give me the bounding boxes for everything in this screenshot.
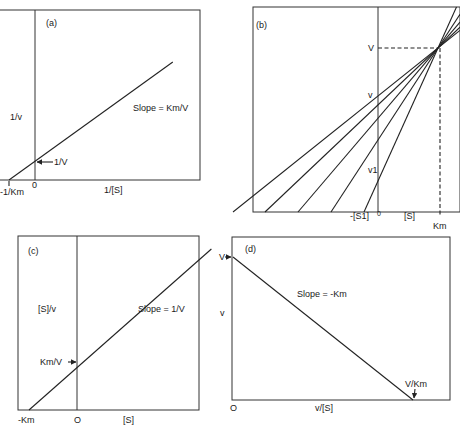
panel-c-frame (18, 236, 199, 410)
panel-a-frame (0, 10, 200, 180)
panel-b-plot-line-1 (233, 30, 460, 212)
panel-d-tag: (d) (245, 244, 256, 254)
panel-b-v-label: v (368, 90, 373, 100)
panel-b-origin: 0 (377, 210, 381, 217)
panel-d-Vkm-arrow (414, 389, 415, 398)
panel-d-plot-line (233, 257, 413, 400)
panel-b-frame (253, 7, 460, 212)
panel-a-plot-line (9, 62, 173, 180)
panel-b-v1-label: v1 (368, 165, 378, 175)
panel-d-x-intercept-label: V/Km (405, 379, 427, 389)
panel-a-tag: (a) (46, 18, 57, 28)
panel-d-ylabel: v (220, 308, 225, 318)
panel-a-ylabel: 1/v (10, 112, 23, 122)
panel-b-tag: (b) (256, 20, 267, 30)
panel-b-lines (233, 7, 460, 212)
panel-b-Km-label: Km (433, 221, 447, 231)
panel-c-origin: O (74, 415, 81, 425)
panel-a-origin: 0 (32, 180, 37, 190)
panel-d-frame (232, 237, 450, 400)
panel-a: (a) 1/v 1/[S] 0 -1/Km 1/V Slope = Km/V (0, 10, 200, 197)
panel-c-plot-line (29, 249, 211, 410)
panel-a-x-intercept-label: -1/Km (0, 187, 24, 197)
panel-b-V-label: V (368, 43, 374, 53)
panel-d: (d) V v Slope = -Km V/Km O v/[S] (219, 237, 450, 413)
panel-d-slope-label: Slope = -Km (297, 289, 347, 299)
kinetics-figure: (a) 1/v 1/[S] 0 -1/Km 1/V Slope = Km/V (… (0, 0, 460, 427)
panel-d-origin: O (230, 403, 237, 413)
panel-a-slope-label: Slope = Km/V (133, 103, 188, 113)
panel-c-y-intercept-label: Km/V (40, 357, 62, 367)
panel-c-slope-label: Slope = 1/V (138, 304, 185, 314)
panel-b: (b) V v v1 -[S1] 0 [S] Km (233, 7, 460, 231)
panel-a-xlabel: 1/[S] (104, 185, 123, 195)
panel-d-xlabel: v/[S] (315, 403, 333, 413)
panel-b-xlabel: [S] (404, 211, 415, 221)
panel-b-plot-line-4 (331, 14, 460, 212)
panel-c-x-intercept-label: -Km (18, 415, 35, 425)
panel-b-plot-line-2 (265, 27, 460, 212)
panel-c-xlabel: [S] (123, 415, 134, 425)
panel-c: (c) [S]/v [S] O -Km Km/V Slope = 1/V (18, 236, 211, 425)
panel-c-tag: (c) (28, 246, 39, 256)
panel-a-y-intercept-label: 1/V (54, 157, 68, 167)
panel-b-neg-S1-label: -[S1] (350, 211, 369, 221)
panel-d-y-intercept-label: V (219, 252, 225, 262)
panel-c-ylabel: [S]/v (38, 304, 57, 314)
